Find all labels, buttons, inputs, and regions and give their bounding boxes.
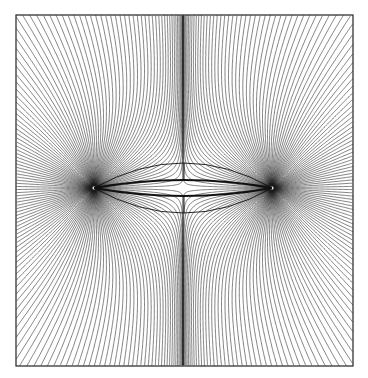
field-lines-canvas <box>0 0 368 378</box>
field-lines <box>16 15 353 366</box>
frame-border <box>16 15 353 366</box>
field-line-diagram <box>0 0 368 378</box>
